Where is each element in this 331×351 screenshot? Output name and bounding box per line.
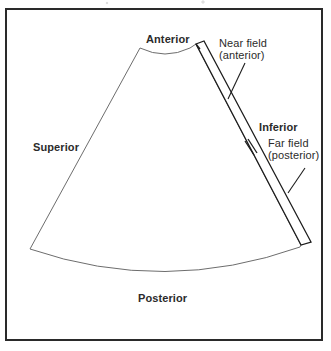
label-near-field: Near field (anterior) [219, 37, 267, 62]
far-field-leader-line [288, 168, 305, 193]
label-posterior: Posterior [138, 292, 187, 304]
label-inferior: Inferior [259, 121, 298, 133]
label-far-field-line1: Far field [268, 137, 309, 149]
figure-root: Anterior Superior Posterior Inferior Nea… [0, 0, 331, 351]
label-superior: Superior [33, 141, 79, 153]
near-field-leader-line [228, 63, 245, 99]
label-near-field-line2: (anterior) [219, 49, 267, 61]
label-far-field-line2: (posterior) [268, 149, 319, 161]
label-far-field: Far field (posterior) [268, 137, 319, 162]
label-near-field-line1: Near field [219, 37, 267, 49]
label-anterior: Anterior [146, 33, 190, 45]
